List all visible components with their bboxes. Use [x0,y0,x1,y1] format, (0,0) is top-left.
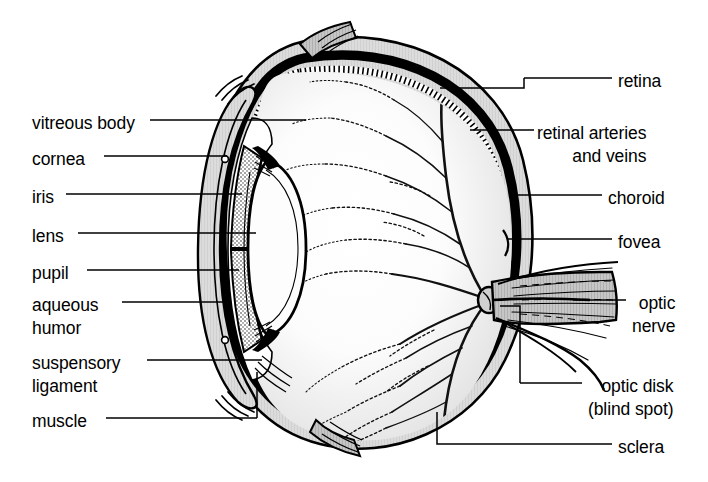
optic-nerve [492,262,618,390]
label-vitreous_body: vitreous body [32,112,135,135]
label-retina: retina [618,70,661,93]
label-iris: iris [32,186,54,209]
eye-anatomy-figure: vitreous bodycorneairislenspupilaqueous … [0,0,708,482]
label-optic_disk: optic disk (blind spot) [588,375,673,421]
label-aqueous_humor: aqueous humor [32,294,98,340]
label-lens: lens [32,225,64,248]
label-optic_nerve: optic nerve [632,292,675,338]
label-cornea: cornea [32,148,85,171]
label-choroid: choroid [608,187,665,210]
label-sclera: sclera [618,436,664,459]
label-pupil: pupil [32,262,68,285]
label-retinal_arteries: retinal arteries and veins [537,122,646,168]
label-fovea: fovea [618,231,660,254]
label-muscle: muscle [32,410,87,433]
label-suspensory_ligament: suspensory ligament [32,352,121,398]
